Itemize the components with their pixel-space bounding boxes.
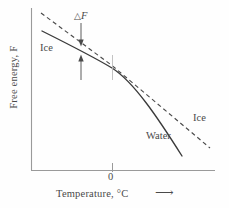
- y-axis-label: Free energy, F: [9, 29, 20, 125]
- ice-curve-dashed: [41, 13, 210, 148]
- x-axis-direction-arrow-icon: ⟶: [155, 186, 174, 199]
- delta-f-letter: F: [81, 10, 87, 21]
- water-curve-label: Water: [146, 131, 171, 142]
- ice-curve-label-right: Ice: [193, 113, 206, 124]
- x-axis-tick-label-zero: 0: [108, 172, 113, 183]
- ice-curve-label-left: Ice: [40, 43, 53, 54]
- delta-free-energy-annotation: △F: [74, 11, 87, 22]
- delta-f-lower-arrowhead: [78, 55, 83, 62]
- delta-triangle-icon: △: [74, 11, 81, 21]
- delta-f-upper-arrowhead: [78, 40, 83, 47]
- plot-canvas: [0, 0, 229, 208]
- x-axis-label: Temperature, °C: [56, 189, 128, 200]
- free-energy-vs-temperature-figure: Free energy, F Temperature, °C ⟶ 0 Ice I…: [0, 0, 229, 208]
